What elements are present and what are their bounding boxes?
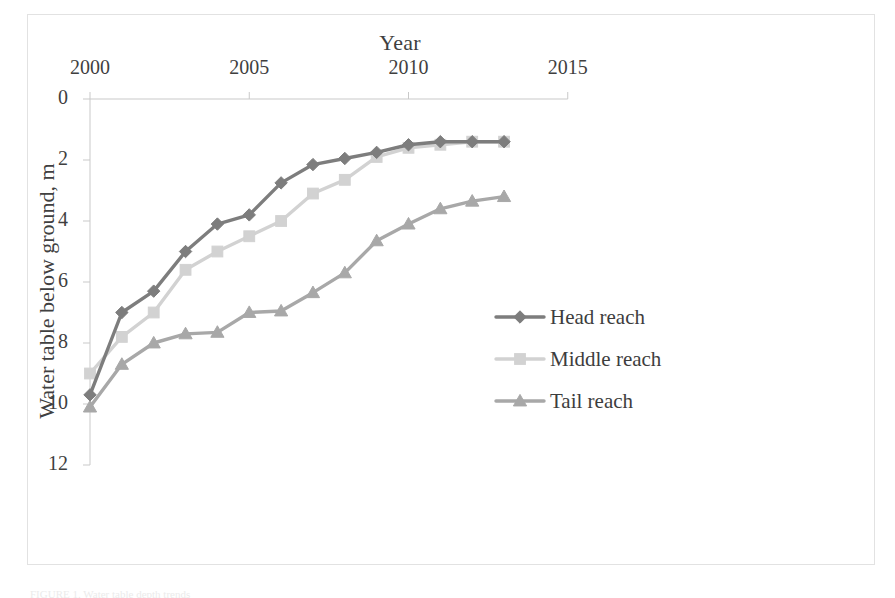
data-point-marker	[339, 152, 351, 164]
y-tick-label-4: 4	[22, 208, 68, 231]
data-point-marker	[308, 188, 319, 199]
y-tick-label-2: 2	[22, 147, 68, 170]
x-tick-label-2010: 2010	[374, 56, 444, 79]
series-line	[90, 197, 504, 407]
legend-item-middle-reach[interactable]: Middle reach	[494, 338, 744, 380]
data-point-marker	[180, 264, 191, 275]
legend-marker-triangle-icon	[494, 391, 546, 411]
chart-legend: Head reachMiddle reachTail reach	[494, 296, 744, 422]
legend-label: Tail reach	[546, 389, 633, 414]
plot-area: Year Water table below ground, m 2000200…	[0, 0, 895, 598]
series-tail-reach	[83, 190, 510, 412]
legend-marker-diamond-icon	[494, 307, 546, 327]
data-point-marker	[116, 332, 127, 343]
legend-label: Head reach	[546, 305, 645, 330]
figure-root: Year Water table below ground, m 2000200…	[0, 0, 895, 598]
data-point-marker	[85, 368, 96, 379]
y-tick-label-6: 6	[22, 269, 68, 292]
legend-marker-square-icon	[494, 349, 546, 369]
series-head-reach	[84, 136, 510, 402]
x-tick-label-2005: 2005	[214, 56, 284, 79]
y-tick-label-8: 8	[22, 330, 68, 353]
data-point-marker	[276, 216, 287, 227]
chart-canvas	[0, 0, 895, 598]
legend-item-head-reach[interactable]: Head reach	[494, 296, 744, 338]
legend-item-tail-reach[interactable]: Tail reach	[494, 380, 744, 422]
data-point-marker	[212, 246, 223, 257]
x-tick-label-2015: 2015	[533, 56, 603, 79]
data-point-marker	[515, 354, 526, 365]
y-tick-label-10: 10	[22, 391, 68, 414]
legend-label: Middle reach	[546, 347, 661, 372]
data-point-marker	[514, 311, 526, 323]
data-point-marker	[148, 307, 159, 318]
data-point-marker	[244, 231, 255, 242]
figure-caption-sliver: FIGURE 1. Water table depth trends	[30, 588, 360, 598]
y-tick-label-0: 0	[22, 86, 68, 109]
x-tick-label-2000: 2000	[55, 56, 125, 79]
y-tick-label-12: 12	[22, 452, 68, 475]
series-line	[90, 142, 504, 395]
data-point-marker	[339, 174, 350, 185]
